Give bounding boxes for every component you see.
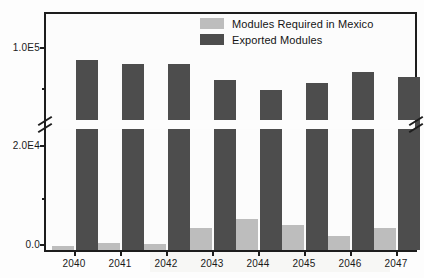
x-tick-mark xyxy=(350,250,352,256)
axis-break-band xyxy=(46,120,415,129)
x-tick-label-2042: 2042 xyxy=(143,258,189,269)
bar-exported-2044 xyxy=(260,90,282,250)
x-tick-label-2041: 2041 xyxy=(97,258,143,269)
x-tick-mark xyxy=(212,250,214,256)
x-tick-mark xyxy=(74,250,76,256)
bar-required-2041 xyxy=(98,243,120,250)
bar-exported-2045 xyxy=(306,83,328,250)
x-tick-mark xyxy=(258,250,260,256)
bar-exported-2041 xyxy=(122,64,144,250)
x-tick-label-2044: 2044 xyxy=(235,258,281,269)
x-tick-mark xyxy=(304,250,306,256)
x-tick-label-2040: 2040 xyxy=(51,258,97,269)
chart-legend: Modules Required in Mexico Exported Modu… xyxy=(200,16,373,48)
y-axis: 1.0E5 2.0E4 0.0 xyxy=(0,0,40,278)
y-tick-label-0: 0.0 xyxy=(25,239,40,250)
x-tick-mark xyxy=(396,250,398,256)
x-tick-label-2045: 2045 xyxy=(281,258,327,269)
legend-label-exported: Exported Modules xyxy=(232,34,322,46)
plot-area xyxy=(44,12,417,252)
legend-item-exported: Exported Modules xyxy=(200,32,373,47)
bar-exported-2042 xyxy=(168,64,190,250)
x-tick-label-2047: 2047 xyxy=(373,258,419,269)
legend-label-required: Modules Required in Mexico xyxy=(232,18,373,30)
y-tick-label-20k: 2.0E4 xyxy=(13,140,40,151)
bar-exported-2047 xyxy=(398,77,420,250)
bar-required-2040 xyxy=(52,246,74,250)
legend-item-required: Modules Required in Mexico xyxy=(200,16,373,31)
x-tick-mark xyxy=(120,250,122,256)
y-tick-label-100k: 1.0E5 xyxy=(13,42,40,53)
bar-required-2045 xyxy=(282,225,304,250)
bar-required-2043 xyxy=(190,228,212,250)
bar-required-2042 xyxy=(144,244,166,250)
bar-required-2046 xyxy=(328,236,350,250)
bar-exported-2040 xyxy=(76,60,98,250)
legend-swatch-icon xyxy=(200,34,224,45)
x-tick-label-2043: 2043 xyxy=(189,258,235,269)
bar-required-2047 xyxy=(374,228,396,250)
bar-required-2044 xyxy=(236,219,258,250)
x-tick-label-2046: 2046 xyxy=(327,258,373,269)
bar-exported-2046 xyxy=(352,72,374,250)
x-tick-mark xyxy=(166,250,168,256)
bar-chart: 1.0E5 2.0E4 0.0 xyxy=(0,0,424,278)
bar-exported-2043 xyxy=(214,80,236,250)
legend-swatch-icon xyxy=(200,18,224,29)
